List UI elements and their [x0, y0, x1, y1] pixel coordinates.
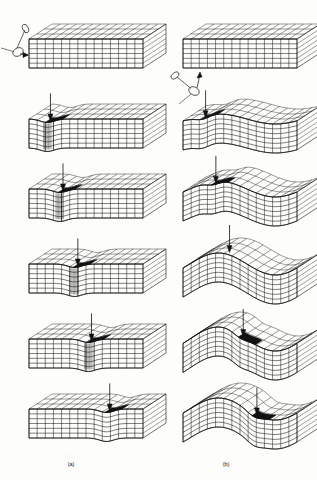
top-edge-outline [29, 339, 143, 342]
end-face-line [297, 343, 317, 358]
end-face-line [143, 48, 166, 63]
end-face-line [143, 29, 166, 44]
end-face-line [297, 268, 317, 283]
end-face-line [143, 43, 166, 58]
crater-region [252, 411, 276, 420]
top-face-line-depth [232, 168, 255, 183]
end-face-line [143, 343, 166, 358]
panel-a-row-2 [29, 93, 166, 151]
top-face-line-depth [264, 258, 287, 273]
end-face-line [297, 417, 317, 432]
impactor [1, 23, 30, 58]
panel-b-row-4 [183, 225, 317, 304]
end-face-line [297, 125, 317, 140]
end-face-line [143, 119, 166, 134]
top-face-line-depth [224, 99, 247, 114]
end-face-line [297, 43, 317, 58]
top-face-line-depth [281, 335, 304, 350]
panel-a-row-1 [1, 23, 166, 68]
column-caption-a: (a) [68, 461, 75, 467]
top-face-line-depth [29, 104, 52, 119]
top-face-line-depth [248, 175, 271, 190]
panel-a-row-6 [29, 383, 166, 441]
end-face-line [143, 399, 166, 414]
end-face-line [143, 404, 166, 419]
end-face-line [143, 329, 166, 344]
end-face-line [297, 48, 317, 63]
top-face-line-depth [264, 334, 287, 349]
end-face-line [297, 196, 317, 211]
end-face-line [297, 353, 317, 368]
end-face-line [143, 413, 166, 428]
end-face-line [143, 254, 166, 269]
top-face-line-depth [289, 402, 312, 417]
end-face-line [297, 413, 317, 428]
impactor-tail [21, 23, 30, 33]
top-face-line-depth [264, 181, 287, 196]
impactor [170, 71, 202, 104]
end-face-line [143, 193, 166, 208]
top-face-line-depth [256, 330, 279, 345]
end-face-line [143, 184, 166, 199]
end-face-line [297, 130, 317, 145]
end-face-line [297, 272, 317, 287]
bottom-edge-outline [29, 218, 143, 221]
end-face-line [297, 39, 317, 54]
panel-a-row-5 [29, 313, 166, 371]
end-face-line [143, 409, 166, 424]
end-face-line [143, 268, 166, 283]
top-face-line-depth [273, 405, 296, 420]
end-face-line [297, 29, 317, 44]
bottom-edge-outline [29, 293, 143, 296]
end-face-line [143, 273, 166, 288]
panel-a-row-4 [29, 238, 166, 296]
panel-b-row-5 [183, 309, 317, 380]
end-face-line [143, 114, 166, 129]
end-face-line [143, 348, 166, 363]
end-face-line [143, 339, 166, 354]
impactor-head [11, 46, 24, 58]
load-arrow-head [227, 245, 232, 252]
top-face-line-depth [216, 312, 239, 327]
panel-a-row-3 [29, 163, 166, 221]
top-face-line-depth [240, 171, 263, 186]
end-face-line [143, 259, 166, 274]
mesh-line-horizontal [29, 438, 143, 441]
impactor-tail [170, 71, 181, 81]
end-face-line [143, 418, 166, 433]
end-face-line [143, 128, 166, 143]
top-face-line-depth [256, 178, 279, 193]
end-face-line [297, 116, 317, 131]
end-face-line [297, 191, 317, 206]
panel-b-row-1 [170, 24, 317, 104]
end-face-line [297, 34, 317, 49]
end-face-line [143, 109, 166, 124]
panel-b-row-3 [183, 156, 317, 226]
top-face-line-depth [273, 260, 296, 275]
end-face-line [297, 422, 317, 437]
end-face-line [297, 201, 317, 216]
end-face-line [143, 189, 166, 204]
impact-direction-head [197, 72, 202, 78]
impactor-shaft [17, 30, 25, 48]
end-face-line [297, 277, 317, 292]
figure-canvas: (a)(b) [0, 0, 317, 480]
top-face-line [191, 248, 305, 270]
end-face-line [143, 34, 166, 49]
impact-simulation-figure: (a)(b) [0, 0, 317, 480]
impactor-guide-line [1, 48, 14, 52]
panel-b-row-6 [183, 383, 317, 449]
top-face-line-depth [191, 173, 214, 188]
top-face-line-depth [256, 106, 279, 121]
end-face-line [297, 348, 317, 363]
end-face-line [143, 179, 166, 194]
end-face-line [143, 198, 166, 213]
end-face-line [297, 111, 317, 126]
top-face-line-depth [281, 405, 304, 420]
top-face-line-depth [224, 383, 247, 398]
end-face-line [143, 264, 166, 279]
end-face-line [143, 123, 166, 138]
impactor-guide-line [179, 94, 191, 104]
end-face-line [143, 334, 166, 349]
top-face-line-depth [281, 260, 304, 275]
